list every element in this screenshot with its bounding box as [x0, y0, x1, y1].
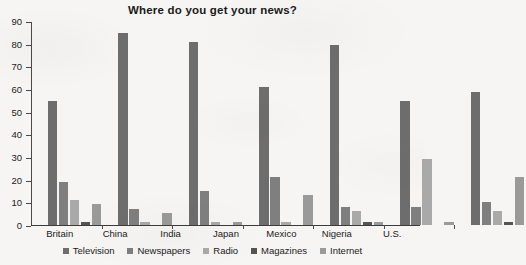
bar-internet-india [233, 222, 243, 224]
bar-group [314, 22, 385, 225]
bar-radio-india [211, 222, 221, 224]
bar-internet-nigeria [444, 222, 454, 224]
legend-item-radio[interactable]: Radio [203, 246, 238, 256]
y-tick-label: 80 [11, 40, 22, 50]
legend-label: Radio [213, 246, 238, 256]
y-tick-label: 10 [11, 199, 22, 209]
legend-swatch-icon [251, 248, 257, 254]
bar-newspapers-india [200, 191, 210, 225]
bar-television-mexico [330, 45, 340, 225]
bar-radio-britain [70, 200, 80, 225]
bar-newspapers-mexico [341, 207, 351, 225]
y-tick-mark [26, 113, 31, 114]
x-axis-label-japan: Japan [198, 229, 253, 239]
y-tick-label: 50 [11, 108, 22, 118]
y-tick-mark [26, 158, 31, 159]
x-axis-label-nigeria: Nigeria [309, 229, 364, 239]
y-tick-mark [26, 67, 31, 68]
y-tick-label: 20 [11, 176, 22, 186]
y-tick-mark [26, 226, 31, 227]
bar-television-britain [48, 101, 58, 225]
y-tick-label: 0 [17, 221, 22, 231]
bar-radio-us [493, 211, 503, 225]
bar-group [455, 22, 526, 225]
legend-label: Magazines [261, 246, 307, 256]
bar-television-japan [259, 87, 269, 224]
legend-label: Television [73, 246, 115, 256]
bar-group [385, 22, 456, 225]
legend-swatch-icon [320, 248, 326, 254]
x-axis-label-china: China [87, 229, 142, 239]
bar-newspapers-china [129, 209, 139, 225]
bar-radio-mexico [352, 211, 362, 225]
x-axis-line [31, 225, 420, 226]
y-tick-label: 70 [11, 63, 22, 73]
bar-internet-japan [303, 195, 313, 224]
bar-magazines-britain [81, 222, 91, 224]
legend-swatch-icon [127, 248, 133, 254]
bar-television-nigeria [400, 101, 410, 225]
bar-television-us [471, 92, 481, 225]
y-tick-label: 90 [11, 17, 22, 27]
legend-item-newspapers[interactable]: Newspapers [127, 246, 190, 256]
x-axis-label-mexico: Mexico [254, 229, 309, 239]
bar-newspapers-japan [270, 177, 280, 224]
y-tick-mark [26, 22, 31, 23]
legend-swatch-icon [63, 248, 69, 254]
bar-radio-japan [281, 222, 291, 224]
bar-radio-china [140, 222, 150, 224]
y-tick-mark [26, 181, 31, 182]
y-tick-label: 30 [11, 153, 22, 163]
x-axis-group-divider [454, 225, 455, 229]
legend-item-internet[interactable]: Internet [320, 246, 362, 256]
bar-newspapers-us [482, 202, 492, 225]
bar-newspapers-britain [59, 182, 69, 225]
legend-label: Internet [330, 246, 362, 256]
bar-group [32, 22, 103, 225]
bar-internet-britain [92, 204, 102, 224]
y-tick-mark [26, 45, 31, 46]
bar-radio-nigeria [422, 159, 432, 224]
bar-television-china [118, 33, 128, 224]
bar-internet-mexico [374, 222, 384, 224]
legend-label: Newspapers [137, 246, 190, 256]
x-axis-label-india: India [143, 229, 198, 239]
bar-internet-us [515, 177, 525, 224]
y-tick-mark [26, 90, 31, 91]
chart-legend: TelevisionNewspapersRadioMagazinesIntern… [0, 246, 425, 256]
y-tick-mark [26, 135, 31, 136]
y-tick-label: 60 [11, 85, 22, 95]
bar-group [244, 22, 315, 225]
bar-magazines-us [504, 222, 514, 224]
x-axis-label-britain: Britain [32, 229, 87, 239]
bar-groups [32, 22, 420, 225]
bar-group [173, 22, 244, 225]
bar-magazines-mexico [363, 222, 373, 224]
bar-group [103, 22, 174, 225]
y-tick-mark [26, 203, 31, 204]
bar-television-india [189, 42, 199, 224]
bar-newspapers-nigeria [411, 207, 421, 225]
legend-swatch-icon [203, 248, 209, 254]
legend-item-television[interactable]: Television [63, 246, 115, 256]
x-axis-label-us: U.S. [365, 229, 420, 239]
y-tick-label: 40 [11, 131, 22, 141]
x-axis-labels: BritainChinaIndiaJapanMexicoNigeriaU.S. [32, 229, 420, 239]
legend-item-magazines[interactable]: Magazines [251, 246, 307, 256]
chart-title: Where do you get your news? [0, 4, 425, 16]
bar-internet-china [162, 213, 172, 224]
plot-area: 0102030405060708090 [31, 22, 420, 226]
